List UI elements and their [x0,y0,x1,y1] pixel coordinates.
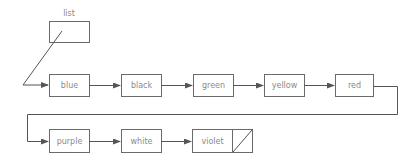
node-white: white [122,130,162,153]
node-green: green [194,75,234,97]
list-variable-label: list [63,9,75,18]
linked-list-diagram: list blue black green yellow red purple … [0,0,419,162]
node-red: red [336,75,374,97]
node-label: green [202,81,225,90]
node-label: black [131,81,153,90]
node-purple: purple [50,130,90,153]
node-label: white [131,137,153,146]
node-label: purple [57,137,83,146]
node-label: blue [61,81,78,90]
node-black: black [122,75,162,97]
node-yellow: yellow [265,75,305,97]
node-label: red [348,81,361,90]
list-variable: list [50,9,90,43]
node-violet: violet [193,130,253,153]
node-label: yellow [272,81,298,90]
node-blue: blue [50,75,90,97]
node-label: violet [201,137,223,146]
